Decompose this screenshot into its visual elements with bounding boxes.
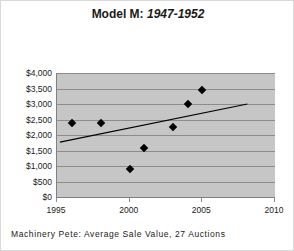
x-axis-tick-label: 1995 bbox=[47, 205, 66, 215]
x-axis-tick-mark bbox=[201, 198, 202, 202]
x-axis: 1995200020052010 bbox=[1, 1, 294, 251]
x-axis-tick-mark bbox=[56, 198, 57, 202]
x-axis-tick-mark bbox=[274, 198, 275, 202]
x-axis-tick-label: 2000 bbox=[119, 205, 138, 215]
chart-figure: Model M: 1947-1952 $0$500$1,000$1,500$2,… bbox=[0, 0, 294, 251]
chart-caption: Machinery Pete: Average Sale Value, 27 A… bbox=[11, 229, 226, 239]
x-axis-tick-mark bbox=[129, 198, 130, 202]
x-axis-tick-label: 2010 bbox=[265, 205, 284, 215]
x-axis-tick-label: 2005 bbox=[192, 205, 211, 215]
